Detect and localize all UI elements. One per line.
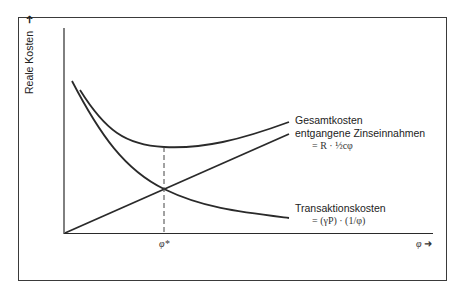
interest-cost-line (65, 134, 289, 233)
y-axis-arrow-icon: ➜ (23, 15, 35, 24)
transaction-cost-curve (72, 81, 289, 218)
formula-interest: = R · ½cφ (312, 140, 353, 152)
x-axis-label: φ ➜ (416, 238, 432, 249)
label-total-cost: Gesamtkosten (295, 114, 363, 126)
y-axis-label-text: Reale Kosten (23, 31, 35, 94)
y-axis-label: Reale Kosten ➜ (23, 15, 35, 94)
x-axis-label-text: φ (416, 238, 422, 249)
label-interest: entgangene Zinseinnahmen (295, 127, 425, 139)
cost-diagram (0, 0, 466, 297)
x-axis-arrow-icon: ➜ (424, 238, 432, 249)
label-transaction-cost: Transaktionskosten (295, 202, 386, 214)
total-cost-curve (80, 90, 289, 147)
x-marker-label: φ* (159, 238, 170, 249)
formula-transaction: = (γP) · (1/φ) (312, 215, 365, 227)
